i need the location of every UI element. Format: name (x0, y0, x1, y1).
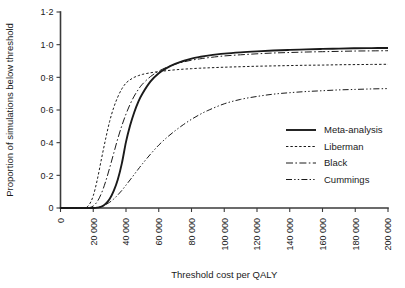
legend-item-meta-analysis: Meta-analysis (286, 124, 383, 135)
y-axis-tick-labels: 00·20·40·60·81·01·2 (40, 7, 53, 213)
chart-plot-area: 00·20·40·60·81·01·2 020 00040 00060 0008… (0, 0, 405, 288)
x-tick-label: 80 000 (187, 218, 197, 246)
legend-item-black: Black (286, 157, 347, 168)
legend-label: Cummings (324, 174, 370, 185)
y-tick-label: 1·2 (40, 7, 53, 17)
legend-item-cummings: Cummings (286, 174, 370, 185)
chart-figure: 00·20·40·60·81·01·2 020 00040 00060 0008… (0, 0, 405, 288)
x-tick-label: 120 000 (252, 218, 262, 251)
x-tick-label: 40 000 (121, 218, 131, 246)
legend-label: Meta-analysis (324, 124, 383, 135)
x-axis-tick-labels: 020 00040 00060 00080 000100 000120 0001… (56, 218, 394, 251)
series-line-liberman (61, 64, 389, 208)
y-tick-label: 0 (48, 203, 53, 213)
x-tick-label: 160 000 (318, 218, 328, 251)
y-tick-label: 0·6 (40, 105, 53, 115)
y-tick-label: 0·8 (40, 73, 53, 83)
chart-legend: Meta-analysisLibermanBlackCummings (286, 124, 383, 185)
x-axis-title: Threshold cost per QALY (171, 269, 278, 280)
x-tick-label: 100 000 (220, 218, 230, 251)
x-tick-label: 0 (56, 218, 66, 223)
legend-item-liberman: Liberman (286, 141, 364, 152)
y-tick-label: 1·0 (40, 40, 53, 50)
y-tick-label: 0·4 (40, 138, 53, 148)
x-tick-label: 180 000 (351, 218, 361, 251)
x-tick-label: 200 000 (383, 218, 393, 251)
y-tick-label: 0·2 (40, 171, 53, 181)
x-tick-label: 20 000 (89, 218, 99, 246)
y-axis-title: Proportion of simulations below threshol… (4, 23, 15, 197)
x-tick-label: 60 000 (154, 218, 164, 246)
legend-label: Liberman (324, 141, 364, 152)
x-tick-label: 140 000 (285, 218, 295, 251)
legend-label: Black (324, 157, 347, 168)
